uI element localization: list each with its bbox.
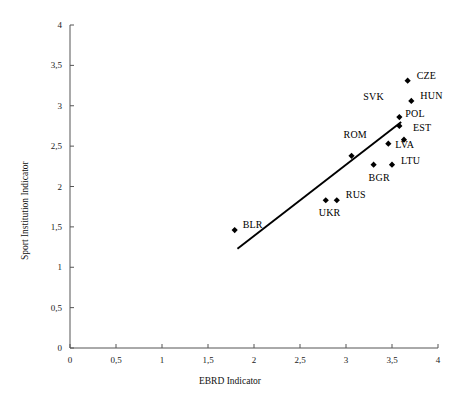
data-point-marker xyxy=(334,197,340,203)
data-point-marker xyxy=(405,78,411,84)
data-point-marker xyxy=(371,162,377,168)
data-point-label: HUN xyxy=(420,90,442,101)
data-point-marker xyxy=(323,197,329,203)
x-tick-label: 0,5 xyxy=(110,355,121,365)
x-axis-ticks xyxy=(70,344,438,348)
y-tick-label: 0 xyxy=(30,343,62,353)
data-point-marker xyxy=(396,114,402,120)
data-point-label: BLR xyxy=(243,219,263,230)
y-axis-ticks xyxy=(70,25,74,348)
y-tick-label: 1 xyxy=(30,262,62,272)
y-tick-label: 2 xyxy=(30,182,62,192)
y-tick-label: 3,5 xyxy=(30,60,62,70)
data-point-marker xyxy=(389,162,395,168)
data-point-label: CZE xyxy=(417,70,437,81)
data-point-label: SVK xyxy=(363,91,384,102)
x-tick-label: 2,5 xyxy=(294,355,305,365)
x-tick-label: 1 xyxy=(160,355,165,365)
data-point-marker xyxy=(232,227,238,233)
y-tick-label: 3 xyxy=(30,101,62,111)
data-point-marker xyxy=(396,123,402,129)
data-point-marker xyxy=(408,98,414,104)
data-point-marker xyxy=(385,141,391,147)
data-point-label: POL xyxy=(405,108,425,119)
x-tick-label: 0 xyxy=(68,355,73,365)
data-point-label: RUS xyxy=(346,189,366,200)
data-point-label: EST xyxy=(413,122,431,133)
y-tick-label: 1,5 xyxy=(30,222,62,232)
data-point-label: BGR xyxy=(369,172,390,183)
plot-area xyxy=(0,0,460,405)
y-axis-title: Sport Institution Indicator xyxy=(20,161,30,260)
y-tick-label: 4 xyxy=(30,20,62,30)
x-tick-label: 3,5 xyxy=(386,355,397,365)
data-point-label: LVA xyxy=(395,139,414,150)
x-axis-title: EBRD Indicator xyxy=(0,376,460,386)
scatter-chart: EBRD Indicator Sport Institution Indicat… xyxy=(0,0,460,405)
axes xyxy=(70,25,438,348)
data-point-label: UKR xyxy=(319,207,341,218)
y-tick-label: 0,5 xyxy=(30,303,62,313)
data-point-label: ROM xyxy=(344,129,367,140)
x-tick-label: 2 xyxy=(252,355,257,365)
x-tick-label: 3 xyxy=(344,355,349,365)
y-tick-label: 2,5 xyxy=(30,141,62,151)
x-tick-label: 1,5 xyxy=(202,355,213,365)
x-tick-label: 4 xyxy=(436,355,441,365)
data-point-label: LTU xyxy=(401,155,420,166)
